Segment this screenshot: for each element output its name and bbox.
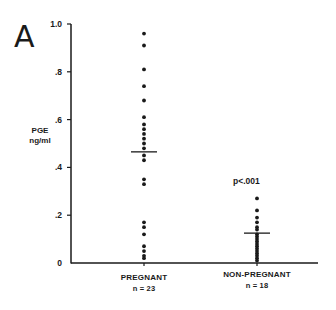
data-point: [142, 244, 146, 248]
data-point: [142, 154, 146, 158]
data-point: [142, 115, 146, 119]
data-point: [142, 99, 146, 103]
data-point: [142, 127, 146, 131]
data-point: [255, 259, 259, 263]
figure: A PGE ng/ml 0.2.4.6.81.0 PREGNANTn = 23N…: [0, 0, 336, 310]
data-point: [255, 209, 259, 213]
data-point: [255, 216, 259, 220]
data-point: [255, 228, 259, 232]
plot-area: [0, 0, 336, 310]
data-point: [142, 249, 146, 253]
data-point: [142, 68, 146, 72]
data-points: [142, 32, 259, 263]
data-point: [142, 84, 146, 88]
data-point: [142, 256, 146, 260]
mean-lines: [131, 152, 270, 233]
data-point: [142, 137, 146, 141]
data-point: [255, 220, 259, 224]
data-point: [142, 142, 146, 146]
data-point: [142, 220, 146, 224]
data-point: [142, 177, 146, 181]
data-point: [142, 44, 146, 48]
data-point: [142, 182, 146, 186]
axes: [67, 24, 318, 266]
data-point: [142, 158, 146, 162]
data-point: [142, 146, 146, 150]
data-point: [142, 132, 146, 136]
data-point: [142, 32, 146, 36]
data-point: [255, 197, 259, 201]
data-point: [142, 122, 146, 126]
data-point: [142, 225, 146, 229]
data-point: [142, 232, 146, 236]
